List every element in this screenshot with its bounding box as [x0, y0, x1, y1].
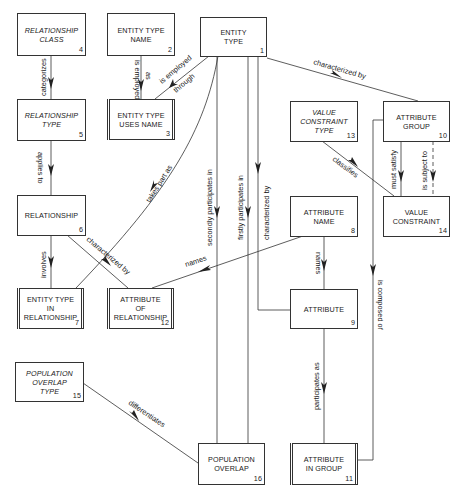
entity-name: POPULATION OVERLAP — [205, 455, 258, 473]
entity-name: ENTITY TYPE — [217, 28, 249, 46]
entity-number: 2 — [168, 46, 172, 54]
entity-number: 15 — [73, 392, 81, 400]
label-is-subject-to: is subject to — [420, 151, 429, 190]
entity-name: ATTRIBUTE GROUP — [393, 113, 439, 131]
entity-name: RELATIONSHIP CLASS — [22, 26, 81, 44]
entity-number: 7 — [75, 319, 79, 327]
label-is-employed: is employed — [133, 60, 142, 99]
entity-name: VALUE CONSTRAINT — [390, 208, 444, 226]
entity-attribute-name[interactable]: ATTRIBUTE NAME 8 — [290, 196, 358, 237]
rel-classifies: classifies — [322, 141, 394, 196]
entity-attribute[interactable]: ATTRIBUTE 9 — [290, 289, 358, 329]
rel-must-satisfy: must satisfy — [389, 141, 404, 196]
entity-name: ENTITY TYPE IN RELATIONSHIP — [21, 295, 80, 322]
rel-applies-to: applies to — [36, 141, 54, 195]
rel-names-8-12: names — [152, 236, 303, 288]
entity-population-overlap[interactable]: POPULATION OVERLAP 16 — [198, 443, 265, 485]
entity-number: 4 — [79, 46, 83, 54]
rel-firstly-participates-in: firstly participates in — [236, 56, 251, 443]
entity-population-overlap-type[interactable]: POPULATION OVERLAP TYPE 15 — [15, 362, 84, 402]
entity-relationship-type[interactable]: RELATIONSHIP TYPE 5 — [17, 99, 86, 141]
rel-names-8-9: names — [314, 236, 327, 289]
entity-number: 10 — [439, 132, 447, 140]
label-takes-part-as: takes part as — [144, 163, 174, 204]
entity-number: 1 — [260, 47, 264, 55]
entity-number: 8 — [351, 227, 355, 235]
label-names-8-12: names — [184, 253, 208, 269]
entity-attribute-of-relationship[interactable]: ATTRIBUTE OF RELATIONSHIP 12 — [107, 288, 174, 329]
entity-number: 12 — [161, 319, 169, 327]
rel-is-composed-of: is composed of — [358, 120, 385, 460]
entity-number: 6 — [79, 226, 83, 234]
entity-name: VALUE CONSTRAINT TYPE — [297, 108, 351, 135]
label-firstly-participates-in: firstly participates in — [236, 175, 245, 240]
label-secondly-participates-in: secondly participates in — [205, 169, 214, 246]
rel-is-subject-to: is subject to — [420, 141, 436, 196]
rel-is-employed-through: is employed through — [155, 53, 209, 99]
entity-number: 16 — [254, 475, 262, 483]
entity-entity-type-name[interactable]: ENTITY TYPE NAME 2 — [107, 13, 175, 56]
entity-number: 11 — [345, 475, 353, 483]
entity-name: RELATIONSHIP TYPE — [22, 111, 81, 129]
entity-name: ENTITY TYPE USES NAME — [114, 111, 167, 129]
rel-differentiates: differentiates — [83, 383, 198, 463]
entity-name: ATTRIBUTE IN GROUP — [301, 455, 347, 473]
entity-relationship[interactable]: RELATIONSHIP 6 — [17, 195, 86, 236]
label-applies-to: applies to — [36, 152, 45, 184]
rel-is-employed-as: is employed as — [133, 56, 153, 99]
label-as: as — [144, 72, 153, 80]
rel-takes-part-as: takes part as — [76, 56, 218, 288]
label-is-composed-of: is composed of — [376, 280, 385, 331]
entity-name: POPULATION OVERLAP TYPE — [23, 369, 76, 396]
entity-name: ATTRIBUTE NAME — [301, 208, 347, 226]
label-names-8-9: names — [314, 252, 323, 274]
entity-entity-type[interactable]: ENTITY TYPE 1 — [200, 17, 267, 57]
entity-number: 9 — [351, 319, 355, 327]
entity-name: RELATIONSHIP — [22, 211, 81, 220]
rel-categorizes: categorizes — [39, 56, 54, 99]
label-characterized-by-1-9: characterized by — [262, 185, 271, 240]
entity-entity-type-uses-name[interactable]: ENTITY TYPE USES NAME 3 — [107, 99, 175, 140]
entity-number: 3 — [166, 130, 170, 138]
rel-involves: involves — [39, 235, 54, 288]
label-categorizes: categorizes — [39, 58, 48, 96]
rel-secondly-participates-in: secondly participates in — [205, 56, 220, 443]
entity-relationship-class[interactable]: RELATIONSHIP CLASS 4 — [17, 13, 86, 56]
entity-name: ENTITY TYPE NAME — [114, 26, 167, 44]
rel-characterized-by-1-10: characterized by — [267, 57, 418, 101]
rel-characterized-by-1-9: characterized by — [255, 56, 290, 310]
entity-name: ATTRIBUTE — [301, 305, 347, 314]
entity-value-constraint[interactable]: VALUE CONSTRAINT 14 — [383, 196, 450, 237]
entity-number: 14 — [439, 227, 447, 235]
entity-number: 5 — [79, 131, 83, 139]
rel-characterized-by-6-12: characterized by — [67, 235, 132, 288]
label-characterized-by-6-12: characterized by — [85, 235, 133, 277]
entity-value-constraint-type[interactable]: VALUE CONSTRAINT TYPE 13 — [290, 101, 358, 142]
label-must-satisfy: must satisfy — [389, 150, 398, 189]
label-characterized-by: characterized by — [312, 57, 367, 81]
label-involves: involves — [39, 251, 48, 278]
er-diagram-connectors: categorizes is employed as is employed t… — [0, 0, 462, 500]
entity-number: 13 — [347, 132, 355, 140]
entity-attribute-group[interactable]: ATTRIBUTE GROUP 10 — [383, 101, 450, 142]
entity-entity-type-in-relationship[interactable]: ENTITY TYPE IN RELATIONSHIP 7 — [17, 288, 84, 329]
entity-attribute-in-group[interactable]: ATTRIBUTE IN GROUP 11 — [290, 443, 358, 485]
label-participates-as: participates as — [312, 362, 321, 410]
rel-participates-as: participates as — [312, 329, 327, 443]
